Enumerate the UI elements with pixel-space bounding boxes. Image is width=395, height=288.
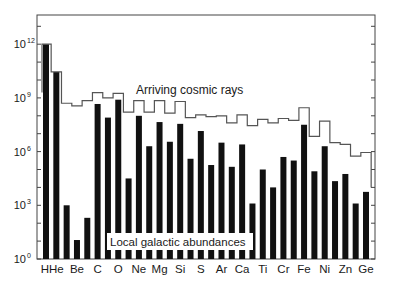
bar-Mn <box>291 161 297 259</box>
bar-He <box>53 72 59 259</box>
bar-Ge <box>363 192 369 259</box>
bar-Fe <box>301 125 307 259</box>
y-tick-exponent: 12 <box>27 37 35 44</box>
x-label-Si: Si <box>175 263 185 275</box>
y-tick-exponent: 9 <box>27 91 31 98</box>
bar-C <box>95 104 101 259</box>
x-label-Ni: Ni <box>319 263 330 275</box>
bar-Cu <box>332 181 338 259</box>
bar-B <box>84 218 90 259</box>
x-label-Ne: Ne <box>132 263 147 275</box>
x-label-O: O <box>114 263 123 275</box>
local-abundances-label: Local galactic abundances <box>110 236 246 248</box>
bar-Sc <box>249 204 255 259</box>
x-label-He: He <box>49 263 64 275</box>
local-abundance-bars <box>43 44 369 259</box>
y-tick-exponent: 3 <box>27 198 31 205</box>
y-tick-label: 10 <box>14 199 26 211</box>
x-label-Zn: Zn <box>339 263 352 275</box>
local-abundance-annotation: Local galactic abundances <box>107 233 253 250</box>
bar-Ti <box>260 170 266 260</box>
bar-H <box>43 44 49 259</box>
abundance-chart: 1001031061091012 HHeBeCONeMgSiSArCaTiCrF… <box>0 0 395 288</box>
bar-Cr <box>280 157 286 259</box>
chart-svg: 1001031061091012 HHeBeCONeMgSiSArCaTiCrF… <box>0 0 395 288</box>
bar-Ni <box>322 146 328 259</box>
x-label-S: S <box>197 263 205 275</box>
x-label-H: H <box>41 263 49 275</box>
y-tick-exponent: 6 <box>27 145 31 152</box>
y-tick-label: 10 <box>14 38 26 50</box>
x-label-Mg: Mg <box>152 263 168 275</box>
y-tick-label: 10 <box>14 92 26 104</box>
x-axis-labels: HHeBeCONeMgSiSArCaTiCrFeNiZnGe <box>41 263 374 275</box>
y-tick-label: 10 <box>14 253 26 265</box>
x-label-Cr: Cr <box>277 263 289 275</box>
y-tick-exponent: 0 <box>27 252 31 259</box>
bar-V <box>270 187 276 259</box>
x-label-Ge: Ge <box>358 263 373 275</box>
bar-Co <box>311 171 317 259</box>
x-label-Ti: Ti <box>258 263 267 275</box>
y-tick-label: 10 <box>14 146 26 158</box>
bar-Zn <box>342 174 348 259</box>
x-label-Ar: Ar <box>216 263 228 275</box>
x-label-Fe: Fe <box>297 263 310 275</box>
bar-Li <box>64 205 70 259</box>
cosmic-rays-annotation: Arriving cosmic rays <box>136 83 243 97</box>
x-label-Be: Be <box>70 263 84 275</box>
bar-Ga <box>353 204 359 259</box>
x-label-Ca: Ca <box>235 263 250 275</box>
bar-Be <box>74 240 80 259</box>
x-label-C: C <box>93 263 101 275</box>
